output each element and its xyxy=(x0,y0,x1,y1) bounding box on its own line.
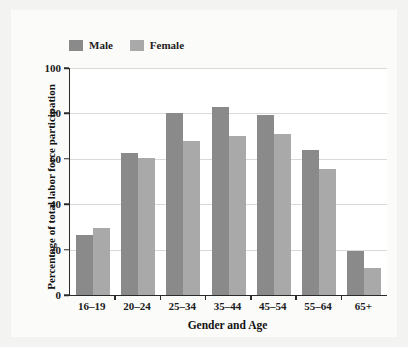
x-tick-label: 55–64 xyxy=(304,300,332,312)
y-axis-tick-labels: 020406080100 xyxy=(25,68,61,295)
gridline xyxy=(70,113,387,114)
bar-female-3 xyxy=(229,136,246,295)
legend-item-female[interactable]: Female xyxy=(130,40,184,51)
chart-legend: Male Female xyxy=(69,37,184,53)
x-tick-label: 45–54 xyxy=(259,300,287,312)
chart-card: Male Female Percentage of total labor fo… xyxy=(11,10,397,337)
plot-inner xyxy=(70,68,387,295)
y-tick-label: 20 xyxy=(50,244,61,256)
y-tick-label: 80 xyxy=(50,107,61,119)
bar-male-5 xyxy=(302,150,319,295)
legend-label-female: Female xyxy=(150,40,184,51)
y-tick-label: 60 xyxy=(50,153,61,165)
x-tick-label: 25–34 xyxy=(168,300,196,312)
figure-background: Male Female Percentage of total labor fo… xyxy=(0,0,408,347)
bar-male-3 xyxy=(212,107,229,295)
bar-female-1 xyxy=(138,158,155,295)
bar-male-6 xyxy=(347,251,364,295)
y-tick-label: 100 xyxy=(45,62,62,74)
x-tick-label: 16–19 xyxy=(78,300,106,312)
legend-item-male[interactable]: Male xyxy=(69,40,113,51)
x-axis-tick-labels: 16–1920–2425–3435–4445–5455–6465+ xyxy=(69,300,386,316)
bar-female-4 xyxy=(274,134,291,295)
bar-female-6 xyxy=(364,268,381,295)
legend-swatch-male xyxy=(69,40,83,51)
bar-male-0 xyxy=(76,235,93,295)
legend-label-male: Male xyxy=(89,40,113,51)
legend-swatch-female xyxy=(130,40,144,51)
bar-male-4 xyxy=(257,115,274,295)
bar-female-0 xyxy=(93,228,110,295)
x-axis-title: Gender and Age xyxy=(69,319,386,331)
bar-male-2 xyxy=(166,113,183,295)
plot-area xyxy=(69,68,387,296)
x-tick-label: 20–24 xyxy=(123,300,151,312)
bar-female-2 xyxy=(183,141,200,295)
bar-female-5 xyxy=(319,169,336,295)
x-tick-label: 35–44 xyxy=(214,300,242,312)
y-tick-label: 40 xyxy=(50,198,61,210)
bar-male-1 xyxy=(121,153,138,295)
x-tick-label: 65+ xyxy=(355,300,372,312)
gridline xyxy=(70,68,387,69)
y-tick-label: 0 xyxy=(56,289,62,301)
